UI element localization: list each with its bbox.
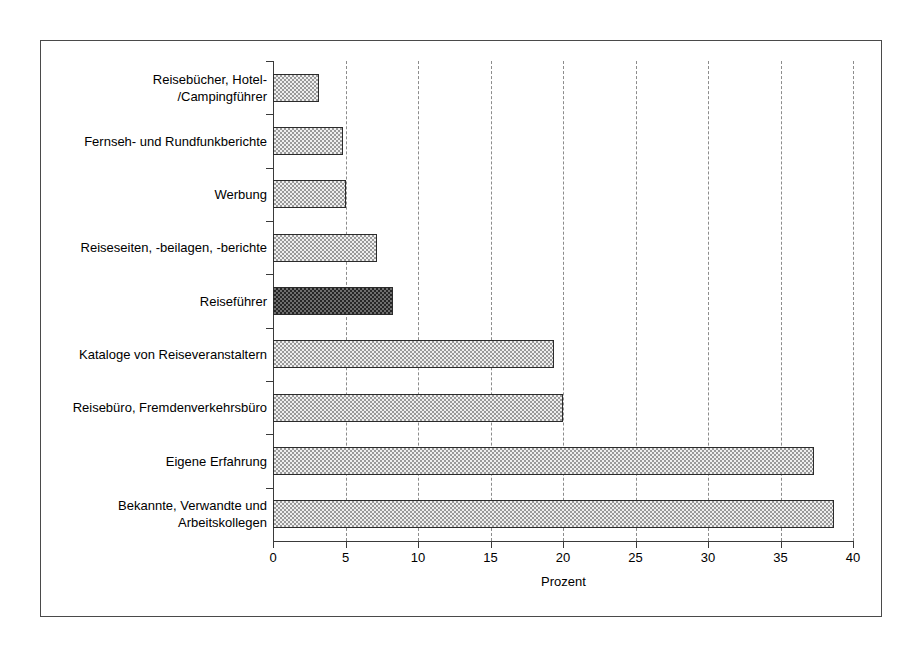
value-axis-tick-label-5: 5 [316,550,376,566]
category-label: Bekannte, Verwandte undArbeitskollegen [58,497,273,531]
category-label-line: Bekannte, Verwandte und [58,497,267,514]
value-axis-title: Prozent [273,573,854,590]
bar[interactable] [273,74,319,102]
value-axis-tick-label-0: 0 [243,550,303,566]
category-label: Eigene Erfahrung [58,453,273,470]
bar[interactable] [273,127,343,155]
value-axis-tick-15 [491,541,492,548]
category-label-line: Reiseführer [58,293,267,310]
category-label-line: Eigene Erfahrung [58,453,267,470]
bar-row [273,488,853,541]
category-label-line: Werbung [58,186,267,203]
value-axis-tick-label-15: 15 [461,550,521,566]
bar[interactable] [273,287,393,315]
value-axis-tick-label-20: 20 [533,550,593,566]
category-label: Reisebüro, Fremdenverkehrsbüro [58,399,273,416]
value-axis-tick-label-35: 35 [751,550,811,566]
bar[interactable] [273,394,563,422]
category-label-line: Reiseseiten, -beilagen, -berichte [58,239,267,256]
chart-figure-frame: Reisebücher, Hotel-/CampingführerFernseh… [40,40,882,617]
category-label: Reisebücher, Hotel-/Campingführer [58,71,273,105]
value-axis-tick-label-10: 10 [388,550,448,566]
category-label-line: Reisebüro, Fremdenverkehrsbüro [58,399,267,416]
bar[interactable] [273,340,554,368]
value-axis-tick-label-30: 30 [678,550,738,566]
bar-row [273,381,853,434]
category-label: Reiseführer [58,293,273,310]
bar-row [273,114,853,167]
bar-row [273,168,853,221]
category-label-line: Arbeitskollegen [58,514,267,531]
category-label: Reiseseiten, -beilagen, -berichte [58,239,273,256]
bar-row [273,274,853,327]
gridline-40 [853,61,854,541]
category-label-line: Kataloge von Reiseveranstaltern [58,346,267,363]
value-axis-tick-20 [563,541,564,548]
bar[interactable] [273,234,377,262]
value-axis-tick-30 [708,541,709,548]
category-label: Fernseh- und Rundfunkberichte [58,133,273,150]
value-axis-tick-40 [853,541,854,548]
value-axis-tick-10 [418,541,419,548]
bar[interactable] [273,500,834,528]
category-label: Kataloge von Reiseveranstaltern [58,346,273,363]
category-label-line: /Campingführer [58,88,267,105]
value-axis-tick-35 [781,541,782,548]
value-axis-tick-5 [346,541,347,548]
bar-row [273,221,853,274]
bar[interactable] [273,180,346,208]
value-axis-tick-label-25: 25 [606,550,666,566]
category-label-line: Fernseh- und Rundfunkberichte [58,133,267,150]
bar-row [273,328,853,381]
value-axis-tick-0 [273,541,274,548]
category-axis-labels: Reisebücher, Hotel-/CampingführerFernseh… [41,61,273,541]
bar-row [273,434,853,487]
bar[interactable] [273,447,814,475]
plot-area [273,61,853,541]
value-axis-tick-label-40: 40 [823,550,883,566]
value-axis-tick-25 [636,541,637,548]
category-label-line: Reisebücher, Hotel- [58,71,267,88]
category-label: Werbung [58,186,273,203]
bar-row [273,61,853,114]
